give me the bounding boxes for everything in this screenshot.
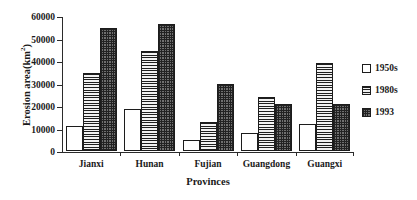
bar-jianxi-1980s — [83, 73, 100, 151]
legend-swatch-icon — [362, 64, 371, 73]
bar-hunan-1993 — [158, 24, 175, 151]
legend-label: 1950s — [375, 63, 398, 73]
legend-label: 1993 — [375, 107, 394, 117]
x-axis-line — [62, 152, 354, 153]
y-axis-tick-label: 40000 — [3, 57, 55, 67]
y-axis-tick-label: 0 — [3, 147, 55, 157]
bar-guangdong-1993 — [275, 104, 292, 151]
bar-jianxi-1950s — [66, 126, 83, 151]
bar-guangdong-1980s — [258, 97, 275, 151]
y-axis-tick-label: 20000 — [3, 102, 55, 112]
bar-group — [124, 16, 175, 151]
x-axis-tick-mark — [353, 152, 354, 156]
legend-swatch-icon — [362, 108, 371, 117]
chart-legend: 1950s1980s1993 — [362, 57, 417, 123]
x-axis-tick-mark — [179, 152, 180, 156]
legend-item-1980s: 1980s — [362, 79, 417, 101]
plot-area: 0100002000030000400005000060000 JianxiHu… — [62, 17, 354, 152]
bar-guangxi-1950s — [299, 124, 316, 151]
bar-guangxi-1993 — [333, 104, 350, 151]
bar-fujian-1950s — [183, 140, 200, 151]
x-axis-category-label: Hunan — [136, 159, 164, 169]
y-axis-line — [62, 17, 63, 153]
x-axis-tick-mark — [296, 152, 297, 156]
chart-figure: Erosion area(km2) 0100002000030000400005… — [0, 0, 417, 200]
legend-item-1993: 1993 — [362, 101, 417, 123]
x-axis-tick-mark — [237, 152, 238, 156]
x-axis-category-label: Guangdong — [243, 159, 291, 169]
bar-fujian-1993 — [217, 84, 234, 152]
y-axis-tick-mark — [57, 130, 62, 131]
x-axis-title: Provinces — [62, 176, 354, 187]
bar-group — [299, 16, 350, 151]
legend-label: 1980s — [375, 85, 398, 95]
bar-jianxi-1993 — [100, 28, 117, 151]
y-axis-tick-label: 60000 — [3, 12, 55, 22]
y-axis-tick-mark — [57, 85, 62, 86]
x-axis-category-label: Jianxi — [79, 159, 104, 169]
bar-group — [66, 16, 117, 151]
x-axis-tick-mark — [120, 152, 121, 156]
bar-fujian-1980s — [200, 122, 217, 151]
legend-item-1950s: 1950s — [362, 57, 417, 79]
bar-group — [183, 16, 234, 151]
y-axis-tick-label: 50000 — [3, 35, 55, 45]
y-axis-tick-mark — [57, 62, 62, 63]
bar-hunan-1950s — [124, 109, 141, 151]
bar-guangdong-1950s — [241, 133, 258, 151]
y-axis-tick-mark — [57, 40, 62, 41]
y-axis-title-exponent: 2 — [19, 47, 27, 51]
bar-hunan-1980s — [141, 51, 158, 151]
y-axis-tick-label: 30000 — [3, 80, 55, 90]
y-axis-tick-mark — [57, 17, 62, 18]
y-axis-tick-label: 10000 — [3, 125, 55, 135]
x-axis-category-label: Fujian — [195, 159, 222, 169]
y-axis-tick-mark — [57, 107, 62, 108]
legend-swatch-icon — [362, 86, 371, 95]
x-axis-category-label: Guangxi — [307, 159, 342, 169]
y-axis-tick-mark — [57, 152, 62, 153]
bar-guangxi-1980s — [316, 63, 333, 151]
bar-group — [241, 16, 292, 151]
